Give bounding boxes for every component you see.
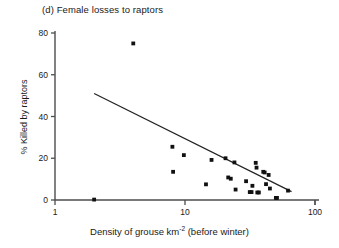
scatter-plot-canvas: [0, 0, 339, 248]
figure-panel: (d) Female losses to raptors % Killed by…: [0, 0, 339, 248]
data-points: [92, 42, 290, 202]
axis-lines: [51, 31, 319, 205]
regression-line: [94, 94, 291, 192]
